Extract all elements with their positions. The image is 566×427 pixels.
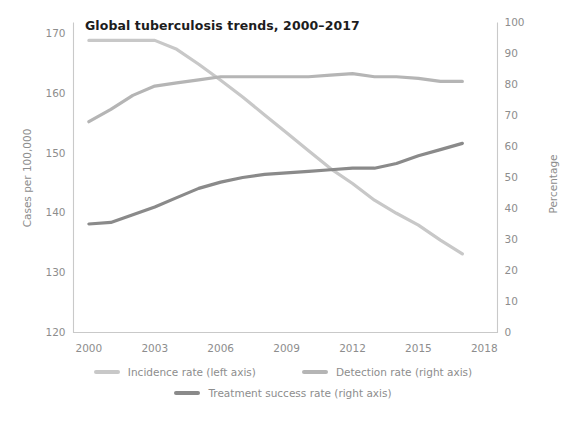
x-tick-label: 2012 bbox=[331, 342, 375, 354]
x-tick-label: 2009 bbox=[265, 342, 309, 354]
legend-item-detection-rate[interactable]: Detection rate (right axis) bbox=[302, 366, 472, 378]
series-line-2 bbox=[89, 143, 462, 224]
y-right-tick-label: 70 bbox=[505, 109, 535, 121]
x-tick-label: 2000 bbox=[67, 342, 111, 354]
y-left-tick-label: 150 bbox=[36, 147, 66, 159]
plot-area bbox=[0, 0, 566, 427]
x-tick-label: 2015 bbox=[396, 342, 440, 354]
y-left-tick-label: 140 bbox=[36, 206, 66, 218]
legend-swatch-icon-incidence bbox=[94, 370, 120, 374]
y-right-tick-label: 60 bbox=[505, 140, 535, 152]
y-left-tick-label: 160 bbox=[36, 87, 66, 99]
y-right-tick-label: 50 bbox=[505, 171, 535, 183]
y-right-tick-label: 40 bbox=[505, 202, 535, 214]
y-axis-right-label: Percentage bbox=[547, 124, 559, 244]
y-right-tick-label: 10 bbox=[505, 295, 535, 307]
y-right-tick-label: 0 bbox=[505, 326, 535, 338]
y-left-tick-label: 170 bbox=[36, 27, 66, 39]
series-line-0 bbox=[89, 40, 462, 253]
chart-title: Global tuberculosis trends, 2000–2017 bbox=[85, 18, 360, 33]
y-right-tick-label: 100 bbox=[505, 16, 535, 28]
y-left-tick-label: 120 bbox=[36, 326, 66, 338]
legend-swatch-icon-treatment bbox=[174, 391, 200, 395]
y-axis-left-label: Cases per 100,000 bbox=[21, 118, 33, 238]
x-tick-label: 2018 bbox=[462, 342, 506, 354]
chart-legend: Incidence rate (left axis) Detection rat… bbox=[0, 366, 566, 408]
legend-label-incidence: Incidence rate (left axis) bbox=[128, 366, 256, 378]
chart-figure: Global tuberculosis trends, 2000–2017 Ca… bbox=[0, 0, 566, 427]
legend-item-treatment-success-rate[interactable]: Treatment success rate (right axis) bbox=[174, 387, 391, 399]
x-tick-label: 2003 bbox=[133, 342, 177, 354]
legend-item-incidence-rate[interactable]: Incidence rate (left axis) bbox=[94, 366, 256, 378]
legend-swatch-icon-detection bbox=[302, 370, 328, 374]
legend-row-bottom: Treatment success rate (right axis) bbox=[0, 387, 566, 399]
y-right-tick-label: 30 bbox=[505, 233, 535, 245]
y-right-tick-label: 80 bbox=[505, 78, 535, 90]
y-right-tick-label: 90 bbox=[505, 47, 535, 59]
series-line-1 bbox=[89, 74, 462, 122]
legend-label-detection: Detection rate (right axis) bbox=[336, 366, 472, 378]
x-tick-label: 2006 bbox=[199, 342, 243, 354]
y-right-tick-label: 20 bbox=[505, 264, 535, 276]
y-left-tick-label: 130 bbox=[36, 266, 66, 278]
legend-row-top: Incidence rate (left axis) Detection rat… bbox=[0, 366, 566, 378]
legend-label-treatment: Treatment success rate (right axis) bbox=[208, 387, 391, 399]
